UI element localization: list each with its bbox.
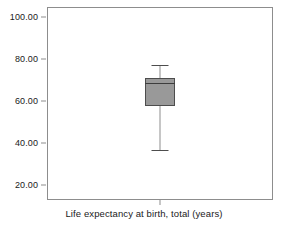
upper-whisker-cap (152, 65, 169, 66)
lower-whisker-cap (152, 150, 169, 151)
upper-whisker-line (160, 65, 161, 79)
x-axis-title: Life expectancy at birth, total (years) (0, 208, 288, 219)
median-line (145, 83, 175, 84)
lower-whisker-line (160, 106, 161, 150)
boxplot-series (0, 0, 288, 226)
boxplot-chart: 100.0080.0060.0040.0020.00 Life expectan… (0, 0, 288, 226)
x-axis-tick-mark (160, 200, 161, 205)
